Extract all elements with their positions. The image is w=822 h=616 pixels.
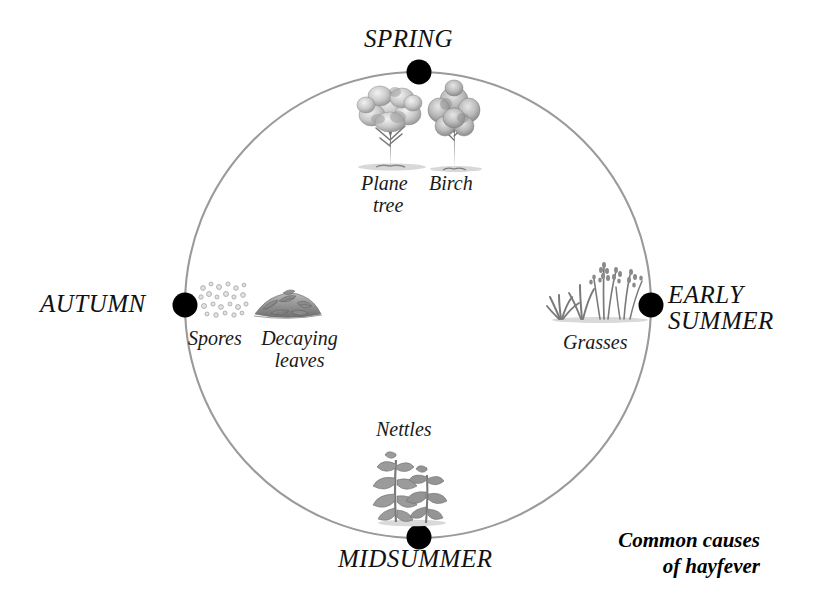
- spores-illustration: [197, 280, 253, 320]
- plane-tree-label-line2: tree: [373, 194, 403, 216]
- trees-svg: [350, 74, 496, 174]
- nettles-illustration: [360, 444, 464, 528]
- season-label-midsummer: MIDSUMMER: [338, 546, 492, 572]
- diagram-caption: Common causesof hayfever: [560, 527, 760, 579]
- caption-line1: Common causes: [618, 528, 760, 552]
- decaying-leaves-label: Decayingleaves: [252, 327, 347, 372]
- season-label-early-summer: EARLYSUMMER: [668, 282, 774, 333]
- plane-tree-illustration: [357, 86, 422, 167]
- caption-line2: of hayfever: [663, 554, 760, 578]
- grasses-label: Grasses: [563, 331, 627, 353]
- season-label-autumn: AUTUMN: [40, 291, 146, 317]
- plane-tree-label: Planetree: [361, 172, 408, 217]
- grasses-illustration: [546, 252, 654, 326]
- season-label-early-summer-line2: SUMMER: [668, 307, 774, 334]
- decaying-leaves-label-line1: Decaying: [261, 327, 338, 349]
- grasses-svg: [546, 252, 654, 326]
- season-label-spring: SPRING: [364, 26, 453, 52]
- decaying-leaves-svg: [253, 283, 323, 319]
- birch-tree-illustration: [428, 80, 480, 170]
- birch-label: Birch: [429, 172, 473, 194]
- decaying-leaves-illustration: [253, 283, 323, 319]
- season-label-early-summer-line1: EARLY: [668, 281, 744, 308]
- hayfever-seasonal-cycle-diagram: Planetree Birch SPRING: [0, 0, 822, 616]
- decaying-leaves-label-line2: leaves: [275, 349, 325, 371]
- spores-svg: [197, 280, 253, 320]
- nettles-svg: [360, 444, 464, 528]
- nettles-label: Nettles: [376, 418, 432, 440]
- season-node-autumn[interactable]: [173, 293, 198, 318]
- plane-tree-label-line1: Plane: [361, 172, 408, 194]
- spores-label: Spores: [188, 327, 242, 349]
- spring-trees-illustration: [350, 74, 496, 174]
